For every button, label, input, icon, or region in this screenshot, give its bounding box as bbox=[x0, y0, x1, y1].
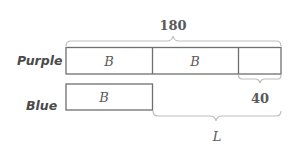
blue-row-label: Blue bbox=[26, 98, 57, 113]
blue-bar bbox=[66, 84, 153, 110]
purple-segment-2-label: B bbox=[189, 54, 200, 69]
purple-segment-1-label: B bbox=[103, 54, 114, 69]
extra-value-label: 40 bbox=[251, 91, 269, 106]
total-brace: 180 bbox=[66, 18, 281, 46]
difference-brace: L bbox=[153, 111, 281, 144]
purple-bar bbox=[66, 48, 281, 75]
blue-segment-1-label: B bbox=[98, 90, 109, 105]
total-value-label: 180 bbox=[159, 18, 186, 33]
blue-row: Blue B bbox=[26, 84, 153, 113]
tape-diagram: 180 Purple B B 40 Blue B L bbox=[0, 0, 301, 152]
difference-value-label: L bbox=[212, 129, 222, 144]
difference-brace-curve bbox=[153, 111, 281, 121]
total-brace-curve bbox=[66, 36, 281, 46]
extra-brace: 40 bbox=[239, 75, 282, 106]
extra-brace-curve bbox=[239, 75, 282, 83]
purple-row-label: Purple bbox=[17, 53, 63, 68]
purple-row: Purple B B bbox=[17, 48, 281, 75]
